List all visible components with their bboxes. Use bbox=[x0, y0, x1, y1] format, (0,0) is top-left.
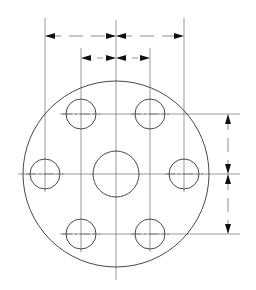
technical-drawing bbox=[0, 0, 256, 290]
dimension-top-inner bbox=[81, 55, 150, 61]
dimension-top-outer bbox=[45, 33, 184, 39]
